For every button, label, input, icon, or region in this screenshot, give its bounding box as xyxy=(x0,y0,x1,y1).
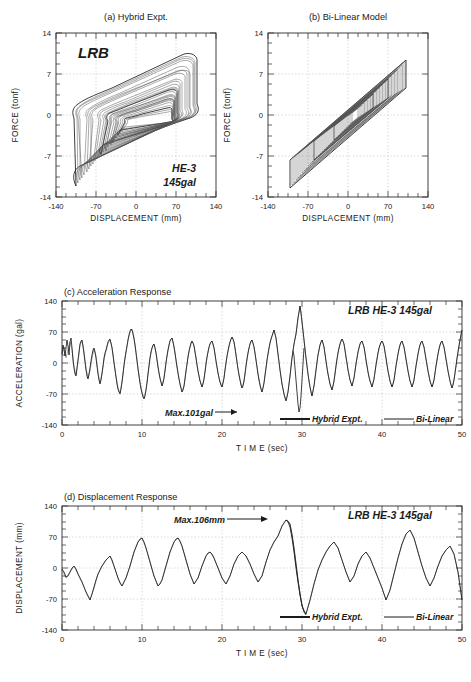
panel-d-legend-label-hybrid: Hybrid Expt. xyxy=(312,612,363,622)
panel-d-ytick-3: -70 xyxy=(46,595,57,604)
panel-d-ytick-labels: 140 70 0 -70 -140 xyxy=(42,502,57,635)
panel-a-xtick-3: 70 xyxy=(172,202,180,211)
panel-a-ytick-2: 0 xyxy=(47,111,51,120)
panel-c-xtick-5: 50 xyxy=(458,430,466,439)
panel-d-corner-label: LRB HE-3 145gal xyxy=(348,509,433,521)
figure-svg: (a) Hybrid Expt. xyxy=(0,0,471,682)
panel-b-ytick-3: -7 xyxy=(256,152,263,161)
panel-a-xlabel: DISPLACEMENT (mm) xyxy=(90,214,182,223)
panel-c-xtick-2: 20 xyxy=(218,430,226,439)
panel-d-title: (d) Displacement Response xyxy=(64,492,177,502)
panel-d-max-annotation: Max.106mm xyxy=(174,515,268,525)
panel-d-ytick-0: 140 xyxy=(44,502,57,511)
panel-c-response-curve xyxy=(62,306,462,412)
panel-d: (d) Displacement Response Max.106mm Hybr… xyxy=(15,492,466,658)
panel-a: (a) Hybrid Expt. xyxy=(11,12,222,223)
panel-b-xtick-3: 70 xyxy=(384,202,392,211)
panel-d-xlabel: T I M E (sec) xyxy=(236,649,288,658)
panel-a-xtick-labels: -140 -70 0 70 140 xyxy=(48,202,222,211)
panel-c-max-label: Max.101gal xyxy=(165,408,214,418)
panel-a-ylabel: FORCE (tonf) xyxy=(11,88,20,143)
panel-a-ytick-1: 7 xyxy=(47,70,51,79)
panel-a-ytick-3: -7 xyxy=(44,152,51,161)
panel-c-ytick-1: 70 xyxy=(49,328,57,337)
panel-d-arrow-icon xyxy=(261,516,268,522)
panel-d-xtick-4: 40 xyxy=(378,635,386,644)
panel-b-ytick-1: 7 xyxy=(259,70,263,79)
panel-b-ytick-4: -14 xyxy=(252,193,263,202)
panel-b-xtick-1: -70 xyxy=(303,202,314,211)
panel-c-legend: Hybrid Expt. Bi-Linear xyxy=(280,414,454,424)
panel-c-corner-label: LRB HE-3 145gal xyxy=(348,304,433,316)
panel-a-level-label: 145gal xyxy=(163,176,197,188)
panel-d-xtick-5: 50 xyxy=(458,635,466,644)
panel-d-xtick-3: 30 xyxy=(298,635,306,644)
panel-c-xtick-4: 40 xyxy=(378,430,386,439)
panel-a-ytick-labels: 14 7 0 -7 -14 xyxy=(40,29,51,202)
panel-b-hysteresis-curve xyxy=(290,60,406,188)
panel-d-xtick-labels: 0 10 20 30 40 50 xyxy=(60,635,466,644)
panel-a-test-label: HE-3 xyxy=(172,162,196,174)
panel-a-xtick-4: 140 xyxy=(210,202,223,211)
panel-b-xlabel: DISPLACEMENT (mm) xyxy=(302,214,394,223)
panel-c-ytick-labels: 140 70 0 -70 -140 xyxy=(42,297,57,430)
panel-c-ytick-0: 140 xyxy=(44,297,57,306)
panel-b-ytick-0: 14 xyxy=(255,29,263,38)
panel-b-xtick-0: -140 xyxy=(260,202,275,211)
panel-c-grid xyxy=(62,301,462,425)
panel-c-legend-label-hybrid: Hybrid Expt. xyxy=(312,414,363,424)
panel-c-xtick-3: 30 xyxy=(298,430,306,439)
panel-d-xtick-1: 10 xyxy=(138,635,146,644)
panel-d-max-label: Max.106mm xyxy=(174,515,225,525)
panel-c-xtick-0: 0 xyxy=(60,430,64,439)
panel-b-xtick-2: 0 xyxy=(346,202,350,211)
panel-b-ytick-labels: 14 7 0 -7 -14 xyxy=(252,29,263,202)
panel-d-response-curve xyxy=(62,520,462,615)
panel-c-title: (c) Acceleration Response xyxy=(64,287,171,297)
panel-c-ylabel: ACCELERATION (gal) xyxy=(15,319,24,408)
panel-d-xtick-0: 0 xyxy=(60,635,64,644)
panel-d-xtick-2: 20 xyxy=(218,635,226,644)
panel-a-specimen-label: LRB xyxy=(78,44,109,61)
panel-c-ytick-4: -140 xyxy=(42,421,57,430)
panel-a-xtick-0: -140 xyxy=(48,202,63,211)
panel-c-arrow-icon xyxy=(231,409,237,415)
panel-b-xtick-labels: -140 -70 0 70 140 xyxy=(260,202,434,211)
panel-b: (b) Bi-Linear Model xyxy=(223,12,434,223)
panel-d-legend-label-bilinear: Bi-Linear xyxy=(416,612,454,622)
panel-c: (c) Acceleration Response Max.101gal Hyb… xyxy=(15,287,466,453)
panel-b-ytick-2: 0 xyxy=(259,111,263,120)
panel-a-xtick-1: -70 xyxy=(91,202,102,211)
panel-d-ylabel: DISPLACEMENT (mm) xyxy=(15,522,24,614)
panel-b-title: (b) Bi-Linear Model xyxy=(309,12,387,22)
panel-b-xtick-4: 140 xyxy=(422,202,435,211)
panel-d-ytick-4: -140 xyxy=(42,626,57,635)
panel-d-grid xyxy=(62,506,462,630)
panel-a-xtick-2: 0 xyxy=(134,202,138,211)
panel-c-ytick-2: 0 xyxy=(53,359,57,368)
panel-d-ytick-1: 70 xyxy=(49,533,57,542)
panel-b-ylabel: FORCE (tonf) xyxy=(223,88,232,143)
panel-c-ytick-3: -70 xyxy=(46,390,57,399)
panel-c-xtick-1: 10 xyxy=(138,430,146,439)
figure-root: (a) Hybrid Expt. xyxy=(0,0,471,682)
panel-a-ytick-4: -14 xyxy=(40,193,51,202)
panel-a-title: (a) Hybrid Expt. xyxy=(104,12,168,22)
panel-d-ytick-2: 0 xyxy=(53,564,57,573)
panel-a-ytick-0: 14 xyxy=(43,29,51,38)
panel-c-xtick-labels: 0 10 20 30 40 50 xyxy=(60,430,466,439)
panel-c-xlabel: T I M E (sec) xyxy=(236,444,288,453)
panel-c-legend-label-bilinear: Bi-Linear xyxy=(416,414,454,424)
panel-c-max-annotation: Max.101gal xyxy=(165,408,237,418)
